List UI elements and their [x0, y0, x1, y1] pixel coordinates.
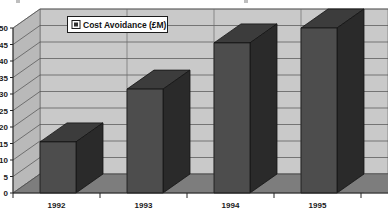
x-tick-marks [13, 193, 361, 198]
bar-side-face [250, 24, 277, 193]
bar-group-1995 [301, 9, 364, 193]
x-tick-label: 1992 [48, 201, 66, 210]
bar-side-face [163, 70, 190, 193]
y-tick-label: 20 [0, 123, 9, 132]
bar-chart-figure: 50 45 40 35 30 25 20 15 10 5 0 1992 1993… [0, 0, 388, 215]
bar-side-face [337, 9, 364, 193]
x-tick-label: 1995 [309, 201, 327, 210]
y-tick-label: 25 [0, 107, 9, 116]
y-tick-label: 30 [0, 90, 9, 99]
y-tick-label: 5 [4, 173, 9, 182]
y-tick-label: 45 [0, 41, 9, 50]
x-tick-label: 1993 [135, 201, 153, 210]
bar-group-1994 [214, 24, 277, 193]
y-axis-tick-labels: 50 45 40 35 30 25 20 15 10 5 0 [0, 24, 9, 198]
cropped-title-remnant [16, 0, 248, 3]
x-axis-category-labels: 1992 1993 1994 1995 [48, 201, 327, 210]
y-tick-label: 50 [0, 24, 9, 33]
y-tick-label: 15 [0, 140, 9, 149]
y-tick-label: 10 [0, 156, 9, 165]
legend-entry-label: Cost Avoidance (£M) [83, 20, 167, 30]
y-tick-label: 35 [0, 74, 9, 83]
chart-canvas: 50 45 40 35 30 25 20 15 10 5 0 1992 1993… [0, 0, 388, 215]
bar-front-face [40, 142, 76, 193]
y-tick-label: 40 [0, 57, 9, 66]
legend-swatch-icon [72, 21, 80, 29]
bar-front-face [214, 43, 250, 193]
x-tick-label: 1994 [222, 201, 240, 210]
y-tick-label: 0 [4, 189, 9, 198]
chart-legend[interactable]: Cost Avoidance (£M) [68, 17, 168, 33]
bar-front-face [127, 89, 163, 193]
floor-right-wedge [364, 174, 388, 193]
bar-front-face [301, 28, 337, 193]
bar-group-1993 [127, 70, 190, 193]
